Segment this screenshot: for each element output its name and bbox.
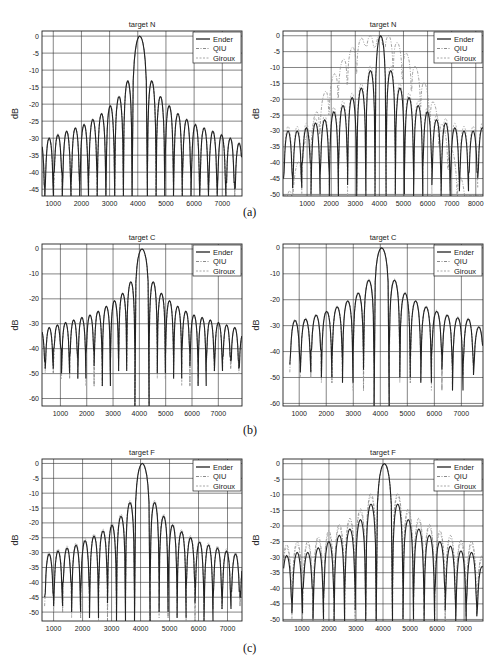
x-tick-label: 7000 [456,625,472,632]
y-tick-label: -20 [270,522,280,529]
legend-label-qiu: QIU [213,257,226,266]
y-tick-label: -40 [270,348,280,355]
y-tick-label: -30 [270,554,280,561]
x-tick-label: 6000 [184,410,200,417]
y-tick-label: -5 [33,475,39,482]
y-tick-label: 0 [35,245,39,252]
caption-c: (c) [243,641,256,656]
x-tick-label: 3000 [348,200,364,207]
x-tick-label: 3000 [345,410,361,417]
legend-label-qiu: QIU [454,44,467,53]
chart-a-left: target N10002000300040005000600070000-5-… [0,0,252,210]
legend-label-qiu: QIU [454,257,467,266]
legend-label-giroux: Giroux [454,54,476,63]
y-tick-label: -30 [29,320,39,327]
x-tick-label: 1000 [291,410,307,417]
y-tick-label: -40 [270,585,280,592]
x-tick-label: 5000 [402,625,418,632]
x-tick-label: 7000 [444,200,460,207]
x-tick-label: 2000 [74,200,90,207]
y-tick-label: -45 [270,600,280,607]
x-tick-label: 7000 [214,200,230,207]
y-axis-label: dB [251,319,261,330]
x-tick-label: 4000 [373,410,389,417]
plot-svg: target F10002000300040005000600070000-5-… [252,430,504,640]
y-tick-label: -60 [29,395,39,402]
x-tick-label: 5000 [158,410,174,417]
legend-label-giroux: Giroux [454,482,476,491]
y-tick-label: -30 [270,127,280,134]
y-tick-label: -5 [274,476,280,483]
legend-label-qiu: QIU [213,44,226,53]
legend-label-giroux: Giroux [213,482,235,491]
x-tick-label: 4000 [375,625,391,632]
y-tick-label: -30 [270,322,280,329]
x-tick-label: 2000 [75,625,91,632]
y-tick-label: -20 [29,295,39,302]
chart-b-right: target C10002000300040005000600070000-10… [252,215,504,425]
y-tick-label: -35 [29,152,39,159]
x-tick-label: 6000 [186,200,202,207]
y-tick-label: -5 [33,50,39,57]
y-tick-label: -50 [270,191,280,198]
y-tick-label: -20 [270,296,280,303]
y-tick-label: -15 [29,505,39,512]
x-tick-label: 4000 [372,200,388,207]
y-tick-label: -50 [270,616,280,623]
legend: EnderQIUGiroux [434,32,482,63]
y-tick-label: -60 [270,400,280,407]
y-tick-label: -25 [270,538,280,545]
chart-c-right: target F10002000300040005000600070000-5-… [252,430,504,640]
x-tick-label: 3000 [104,625,120,632]
x-tick-label: 7000 [211,410,227,417]
y-axis-label: dB [251,108,261,119]
y-tick-label: -50 [29,609,39,616]
y-tick-label: -40 [29,579,39,586]
legend-label-ender: Ender [454,35,475,44]
y-tick-label: -5 [274,48,280,55]
x-tick-label: 6000 [429,625,445,632]
y-tick-label: -10 [270,270,280,277]
legend: EnderQIUGiroux [193,245,241,276]
y-axis-label: dB [251,534,261,545]
y-tick-label: 0 [35,460,39,467]
x-tick-label: 7000 [454,410,470,417]
legend: EnderQIUGiroux [193,32,241,63]
x-tick-label: 2000 [318,410,334,417]
y-axis-label: dB [10,108,20,119]
y-tick-label: -25 [29,534,39,541]
x-tick-label: 5000 [162,625,178,632]
chart-title: target C [370,233,397,242]
legend-label-ender: Ender [454,463,475,472]
x-tick-label: 2000 [323,200,339,207]
y-tick-label: -20 [29,101,39,108]
legend-label-ender: Ender [213,463,234,472]
y-tick-label: 0 [276,460,280,467]
x-tick-label: 6000 [191,625,207,632]
x-tick-label: 3000 [102,200,118,207]
x-tick-label: 2000 [79,410,95,417]
chart-a-right: target N10002000300040005000600070008000… [252,0,504,210]
y-tick-label: -30 [29,549,39,556]
y-tick-label: -10 [270,64,280,71]
x-tick-label: 1000 [45,200,61,207]
y-tick-label: 0 [276,32,280,39]
chart-title: target C [129,233,156,242]
legend-label-giroux: Giroux [213,54,235,63]
plot-svg: target F10002000300040005000600070000-5-… [0,430,252,640]
x-tick-label: 1000 [46,625,62,632]
legend: EnderQIUGiroux [434,460,482,491]
x-tick-label: 4000 [130,200,146,207]
plot-svg: target C10002000300040005000600070000-10… [252,215,504,425]
y-tick-label: -45 [29,594,39,601]
y-tick-label: -10 [29,490,39,497]
x-tick-label: 3000 [348,625,364,632]
y-tick-label: -30 [29,135,39,142]
legend-label-ender: Ender [213,35,234,44]
legend-label-qiu: QIU [454,472,467,481]
chart-title: target F [129,448,155,457]
x-tick-label: 1000 [294,625,310,632]
y-tick-label: -15 [270,507,280,514]
y-tick-label: -25 [270,112,280,119]
x-tick-label: 5000 [158,200,174,207]
